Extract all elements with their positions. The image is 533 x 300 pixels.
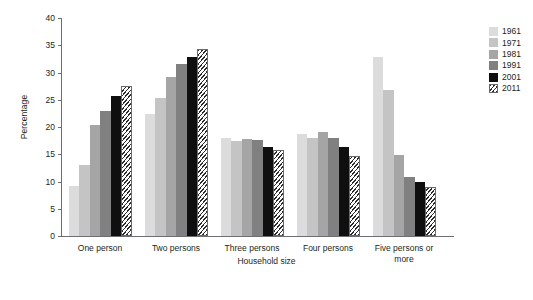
bar [166, 77, 177, 236]
bar [307, 138, 318, 236]
bar [242, 139, 253, 236]
legend-swatch-icon [489, 73, 498, 82]
y-axis-tick-label: 20 [46, 123, 55, 132]
bar [121, 86, 132, 236]
y-axis-tick-label: 35 [46, 41, 55, 50]
bar [145, 114, 156, 236]
bar [425, 187, 436, 236]
bar-group [366, 18, 442, 236]
bar-group [62, 18, 138, 236]
legend-item: 2011 [489, 84, 521, 93]
bar [231, 141, 242, 236]
bar-chart: Percentage Household size 19611971198119… [0, 0, 533, 300]
y-axis-tick-label: 15 [46, 150, 55, 159]
y-axis-tick-label: 5 [50, 205, 55, 214]
bar [273, 150, 284, 236]
legend-swatch-icon [489, 84, 498, 93]
bar [404, 177, 415, 236]
bar [328, 138, 339, 236]
bar [176, 64, 187, 236]
legend-label: 2011 [502, 84, 520, 93]
bar [111, 96, 122, 236]
bar [79, 165, 90, 236]
legend-swatch-icon [489, 61, 498, 70]
legend-item: 1991 [489, 61, 521, 70]
bar [155, 98, 166, 236]
bar [187, 57, 198, 236]
y-axis-tick-label: 25 [46, 96, 55, 105]
legend-item: 1961 [489, 27, 521, 36]
bar [90, 125, 101, 236]
y-axis-title: Percentage [19, 47, 29, 187]
legend-item: 2001 [489, 73, 521, 82]
plot-area [62, 18, 442, 236]
legend-label: 2001 [502, 73, 521, 82]
x-axis-category-label: Five persons ormore [358, 243, 450, 265]
bar [221, 138, 232, 236]
bar [252, 140, 263, 236]
bar [394, 155, 405, 236]
bar [263, 147, 274, 236]
legend-item: 1971 [489, 38, 521, 47]
x-axis-title: Household size [0, 256, 533, 266]
legend-swatch-icon [489, 38, 498, 47]
y-axis-tick-label: 40 [46, 14, 55, 23]
bar [69, 186, 80, 236]
legend-label: 1971 [502, 39, 521, 48]
legend-swatch-icon [489, 27, 498, 36]
legend-label: 1961 [502, 27, 521, 36]
legend-label: 1981 [502, 50, 521, 59]
bar [100, 111, 111, 236]
bar [339, 147, 350, 236]
bar [349, 156, 360, 236]
bar-group [290, 18, 366, 236]
legend-swatch-icon [489, 50, 498, 59]
bar [297, 134, 308, 236]
legend-item: 1981 [489, 50, 521, 59]
bar [373, 57, 384, 236]
bar [197, 49, 208, 236]
y-axis-tick-label: 0 [50, 232, 55, 241]
legend: 196119711981199120012011 [489, 27, 521, 93]
x-axis-line [62, 236, 454, 237]
bar-group [214, 18, 290, 236]
y-axis-tick-label: 10 [46, 177, 55, 186]
bar [318, 132, 329, 236]
bar-group [138, 18, 214, 236]
legend-label: 1991 [502, 61, 521, 70]
y-axis-tick-label: 30 [46, 68, 55, 77]
bar [415, 182, 426, 236]
bar [383, 90, 394, 236]
